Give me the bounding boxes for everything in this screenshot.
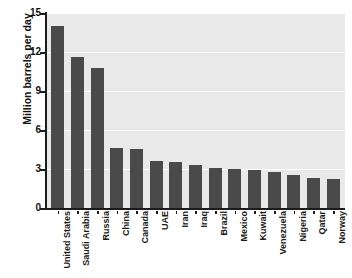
bar	[307, 178, 320, 208]
x-tick: Nigeria	[287, 211, 300, 278]
y-tick-label: 15	[15, 8, 41, 18]
x-tick-mark	[58, 211, 60, 214]
x-axis-labels: United StatesSaudi ArabiaRussiaChinaCana…	[46, 211, 345, 278]
x-tick-mark	[195, 211, 197, 214]
bar	[169, 162, 182, 208]
x-tick: Brazil	[209, 211, 222, 278]
x-tick-label: Norway	[337, 211, 347, 244]
bar	[110, 148, 123, 208]
y-axis-line	[45, 12, 47, 209]
x-tick: Saudi Arabia	[71, 211, 84, 278]
bar	[228, 169, 241, 208]
x-tick-mark	[294, 211, 296, 214]
x-tick: UAE	[150, 211, 163, 278]
bar	[71, 57, 84, 208]
x-tick-mark	[77, 211, 79, 214]
x-tick-mark	[274, 211, 276, 214]
x-tick-mark	[254, 211, 256, 214]
x-tick: Canada	[130, 211, 143, 278]
x-tick: Norway	[327, 211, 340, 278]
y-tick-mark	[40, 13, 45, 15]
y-tick-label: 0	[15, 203, 41, 213]
bar	[209, 168, 222, 208]
x-tick: Mexico	[228, 211, 241, 278]
bar	[268, 172, 281, 208]
bar	[248, 170, 261, 208]
x-tick-mark	[313, 211, 315, 214]
x-tick-mark	[333, 211, 335, 214]
x-tick-mark	[156, 211, 158, 214]
x-tick-mark	[215, 211, 217, 214]
x-tick-mark	[176, 211, 178, 214]
x-tick: Kuwait	[248, 211, 261, 278]
x-tick: Iraq	[189, 211, 202, 278]
chart-figure: Petroleum Production Million barrels per…	[0, 0, 352, 278]
x-tick: Venezuela	[268, 211, 281, 278]
x-tick: Iran	[169, 211, 182, 278]
chart-title: Petroleum Production	[46, 0, 346, 5]
bar	[189, 165, 202, 208]
bar	[287, 175, 300, 208]
bar	[51, 26, 64, 208]
x-tick: Russia	[91, 211, 104, 278]
plot-area	[46, 13, 345, 208]
bar	[327, 179, 340, 208]
bar	[150, 161, 163, 208]
y-tick-mark	[40, 208, 45, 210]
x-tick: China	[110, 211, 123, 278]
x-tick: Qatar	[307, 211, 320, 278]
y-tick-label: 12	[15, 47, 41, 57]
y-tick-label: 6	[15, 125, 41, 135]
x-tick: United States	[51, 211, 64, 278]
y-tick-label: 9	[15, 86, 41, 96]
bar	[130, 149, 143, 208]
y-tick-label: 3	[15, 164, 41, 174]
y-tick-mark	[40, 52, 45, 54]
bar	[91, 68, 104, 208]
bar-series	[46, 13, 345, 208]
y-tick-mark	[40, 91, 45, 93]
x-tick-mark	[235, 211, 237, 214]
y-tick-mark	[40, 169, 45, 171]
x-tick-mark	[136, 211, 138, 214]
y-tick-mark	[40, 130, 45, 132]
x-tick-mark	[97, 211, 99, 214]
x-tick-mark	[117, 211, 119, 214]
